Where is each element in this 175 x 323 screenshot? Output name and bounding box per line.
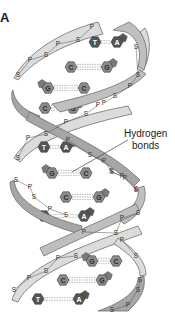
- phosphate-label: P: [66, 136, 70, 143]
- base-letter: C: [60, 277, 65, 284]
- back-strand: [12, 22, 149, 302]
- base-letter: G: [96, 194, 102, 201]
- base-pair: CG: [65, 59, 117, 73]
- phosphate-label: P: [28, 183, 32, 190]
- hydrogen-bonds-label: Hydrogen bonds: [124, 128, 167, 152]
- phosphate-label: P: [56, 40, 60, 47]
- base-letter: T: [42, 144, 47, 151]
- callout-line-1: Hydrogen: [124, 128, 167, 140]
- sugar-label: S: [136, 209, 141, 216]
- phosphate-label: P: [102, 157, 106, 164]
- sugar-label: S: [134, 186, 139, 193]
- base-letter: C: [83, 170, 88, 177]
- ribbon-segment: [10, 180, 82, 234]
- base-pair: GC: [82, 253, 122, 267]
- base-letter: C: [63, 194, 68, 201]
- base-letter: A: [63, 144, 68, 151]
- base-pair: GC: [42, 165, 92, 179]
- sugar-label: S: [44, 51, 49, 58]
- phosphate-label: P: [120, 214, 124, 221]
- sugar-label: S: [138, 276, 143, 283]
- sugar-label: S: [44, 130, 49, 137]
- sugar-label: S: [12, 286, 17, 293]
- sugar-label: S: [88, 151, 93, 158]
- base-letter: G: [49, 170, 55, 177]
- phosphate-label: P: [27, 274, 31, 281]
- base-pair: TA: [32, 291, 89, 305]
- callout-line-2: bonds: [124, 140, 167, 152]
- base-letter: G: [104, 64, 110, 71]
- sugar-label: S: [16, 71, 21, 78]
- base-letter: A: [114, 39, 119, 46]
- phosphate-label: P: [56, 254, 60, 261]
- phosphate-label: P: [26, 134, 30, 141]
- base-pair: CG: [57, 272, 112, 286]
- phosphate-label: P: [28, 56, 32, 63]
- base-letter: A: [76, 296, 81, 303]
- phosphate-label: P: [64, 118, 68, 125]
- base-letter: G: [45, 85, 51, 92]
- sugar-label: S: [136, 286, 141, 293]
- phosphate-label: P: [123, 174, 127, 181]
- base-pair: CG: [60, 189, 109, 203]
- sugar-label: S: [76, 36, 81, 43]
- base-letter: G: [89, 258, 95, 265]
- sugar-label: S: [16, 154, 21, 161]
- sugar-label: S: [134, 43, 139, 50]
- sugar-label: S: [110, 306, 115, 313]
- sugar-label: S: [84, 110, 89, 117]
- dna-double-helix-diagram: TACGGCCGTAGCCGTAGCCGTA SPSPSPSSPSPSPSPSP…: [0, 0, 175, 323]
- phosphate-label: P: [102, 99, 106, 106]
- sugar-label: S: [14, 176, 19, 183]
- phosphate-label: P: [120, 236, 124, 243]
- base-letter: A: [81, 213, 86, 220]
- base-letter: C: [68, 64, 73, 71]
- sugar-label: S: [114, 229, 119, 236]
- sugar-label: S: [64, 211, 69, 218]
- sugar-label: S: [134, 252, 139, 259]
- base-letter: T: [93, 39, 98, 46]
- base-letter: C: [113, 258, 118, 265]
- dna-helix-svg: TACGGCCGTAGCCGTAGCCGTA SPSPSPSSPSPSPSPSP…: [0, 0, 175, 323]
- sugar-label: S: [32, 193, 37, 200]
- base-pair: GC: [38, 80, 90, 94]
- phosphate-label: P: [126, 301, 130, 308]
- phosphate-label: P: [90, 23, 94, 30]
- phosphate-label: P: [48, 205, 52, 212]
- base-letter: T: [36, 296, 41, 303]
- base-letter: C: [42, 105, 47, 112]
- sugar-label: S: [74, 252, 79, 259]
- sugar-label: S: [113, 92, 118, 99]
- sugar-label: S: [44, 267, 49, 274]
- ribbon-segment: [14, 22, 103, 80]
- phosphate-label: P: [128, 82, 132, 89]
- base-letter: C: [81, 85, 86, 92]
- sugar-label: S: [109, 167, 114, 174]
- sugar-label: S: [136, 71, 141, 78]
- phosphate-label: P: [82, 228, 86, 235]
- phosphate-label: P: [96, 101, 100, 108]
- panel-label: A: [0, 10, 9, 25]
- base-letter: G: [99, 277, 105, 284]
